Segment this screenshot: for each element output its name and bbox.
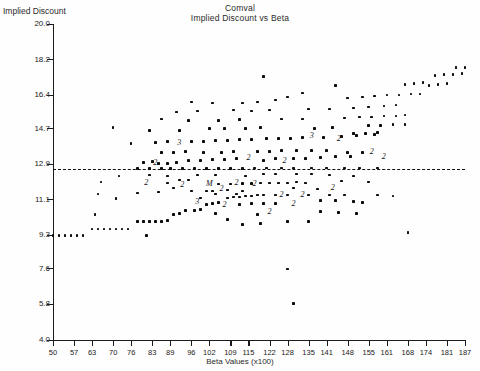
data-point bbox=[386, 94, 389, 97]
data-point bbox=[154, 220, 157, 223]
data-point bbox=[202, 151, 205, 154]
data-point bbox=[211, 102, 214, 105]
data-point bbox=[109, 228, 112, 231]
data-point bbox=[214, 212, 217, 215]
overlap-count-label: M bbox=[206, 180, 213, 188]
x-tick bbox=[191, 340, 192, 346]
x-tick bbox=[465, 340, 466, 346]
x-tick bbox=[131, 340, 132, 346]
data-point bbox=[238, 196, 241, 199]
x-tick bbox=[53, 340, 54, 346]
data-point bbox=[364, 132, 367, 135]
data-point bbox=[142, 220, 145, 223]
data-point bbox=[244, 195, 247, 198]
data-point bbox=[395, 115, 398, 118]
data-point bbox=[280, 118, 283, 121]
data-point bbox=[214, 139, 217, 142]
data-point bbox=[422, 81, 425, 84]
data-point bbox=[337, 211, 340, 214]
data-point bbox=[223, 158, 226, 161]
data-point bbox=[310, 173, 313, 176]
data-point bbox=[184, 209, 187, 212]
data-point bbox=[286, 182, 289, 185]
data-point bbox=[383, 115, 386, 118]
data-point bbox=[256, 194, 259, 197]
data-point bbox=[205, 190, 208, 193]
data-point bbox=[256, 101, 259, 104]
data-point bbox=[175, 111, 178, 114]
data-point bbox=[268, 182, 271, 185]
data-point bbox=[265, 137, 268, 140]
data-point bbox=[52, 234, 55, 237]
data-point bbox=[157, 191, 160, 194]
data-point bbox=[205, 203, 208, 206]
data-point bbox=[392, 123, 395, 126]
data-point bbox=[187, 159, 190, 162]
data-point bbox=[307, 108, 310, 111]
data-point bbox=[352, 200, 355, 203]
data-point bbox=[193, 167, 196, 170]
data-point bbox=[241, 223, 244, 226]
data-point bbox=[452, 73, 455, 76]
data-point bbox=[244, 127, 247, 130]
data-point bbox=[211, 158, 214, 161]
data-point bbox=[232, 196, 235, 199]
data-point bbox=[160, 151, 163, 154]
data-point bbox=[274, 173, 277, 176]
data-point bbox=[178, 129, 181, 132]
data-point bbox=[373, 95, 376, 98]
data-point bbox=[220, 151, 223, 154]
x-tick-label: 187 bbox=[452, 348, 478, 357]
data-point bbox=[238, 138, 241, 141]
data-point bbox=[97, 228, 100, 231]
data-point bbox=[211, 190, 214, 193]
data-point bbox=[112, 126, 115, 129]
data-point bbox=[392, 195, 395, 198]
data-point bbox=[434, 74, 437, 77]
data-point bbox=[286, 194, 289, 197]
data-point bbox=[404, 123, 407, 126]
data-point bbox=[241, 190, 244, 193]
data-point bbox=[199, 197, 202, 200]
x-tick bbox=[369, 340, 370, 346]
data-point bbox=[199, 159, 202, 162]
data-point bbox=[361, 201, 364, 204]
data-point bbox=[428, 84, 431, 87]
y-axis-title: Implied Discount bbox=[3, 6, 66, 16]
y-tick-label: 12.9 bbox=[16, 160, 50, 168]
data-point bbox=[64, 234, 67, 237]
data-point bbox=[130, 142, 133, 145]
data-point bbox=[289, 137, 292, 140]
data-point bbox=[190, 101, 193, 104]
data-point bbox=[190, 190, 193, 193]
y-tick-label: 11.1 bbox=[16, 196, 50, 204]
x-tick bbox=[426, 340, 427, 346]
data-point bbox=[193, 209, 196, 212]
x-tick bbox=[152, 340, 153, 346]
data-point bbox=[250, 195, 253, 198]
data-point bbox=[250, 110, 253, 113]
data-point bbox=[202, 140, 205, 143]
data-point bbox=[250, 138, 253, 141]
data-point bbox=[226, 189, 229, 192]
data-point bbox=[340, 135, 343, 138]
data-point bbox=[316, 188, 319, 191]
data-point bbox=[241, 102, 244, 105]
overlap-count-label: 2 bbox=[144, 179, 148, 187]
data-point bbox=[319, 156, 322, 159]
data-point bbox=[145, 234, 148, 237]
data-point bbox=[301, 118, 304, 121]
data-point bbox=[226, 197, 229, 200]
data-point bbox=[211, 202, 214, 205]
data-point bbox=[118, 175, 121, 178]
data-point bbox=[223, 127, 226, 130]
overlap-count-label: 2 bbox=[337, 135, 341, 143]
data-point bbox=[70, 234, 73, 237]
data-point bbox=[166, 162, 169, 165]
data-point bbox=[226, 218, 229, 221]
x-axis-title: Beta Values (x100) bbox=[0, 357, 480, 366]
data-point bbox=[407, 231, 410, 234]
y-tick-label: 20.0 bbox=[16, 20, 50, 28]
data-point bbox=[292, 187, 295, 190]
data-point bbox=[136, 167, 139, 170]
